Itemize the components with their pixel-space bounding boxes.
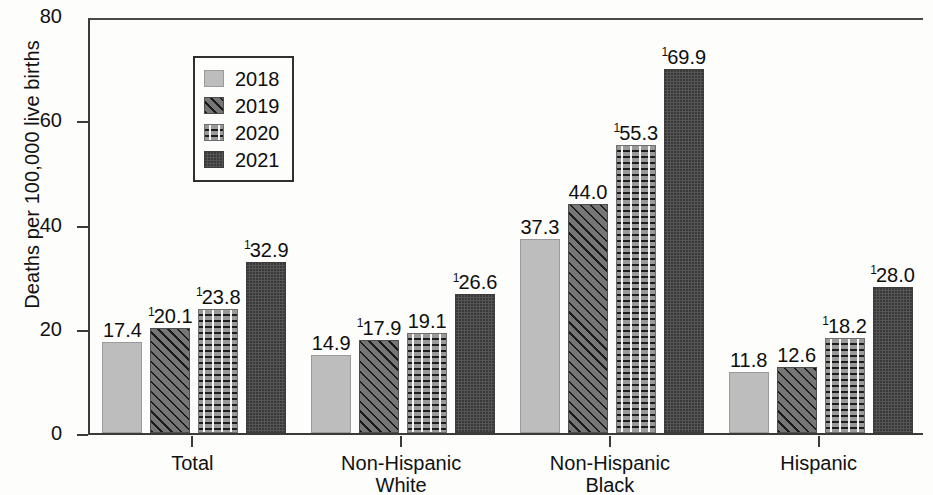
footnote-marker: 1 (196, 285, 203, 299)
footnote-marker: 1 (357, 316, 364, 330)
x-axis-tick-mark (818, 436, 820, 447)
bar-value-label: 155.3 (614, 123, 659, 143)
bar-value-label: 120.1 (148, 306, 193, 326)
legend-item: 2021 (204, 146, 280, 173)
footnote-marker: 1 (148, 305, 155, 319)
footnote-marker: 1 (453, 271, 460, 285)
legend-swatch-2019 (204, 97, 224, 114)
x-axis-group-label: Total (171, 452, 213, 474)
x-axis-tick-mark (400, 436, 402, 447)
legend-item: 2018 (204, 65, 280, 92)
x-axis-group-label-line: Total (171, 452, 213, 474)
footnote-marker: 1 (662, 45, 669, 59)
legend-item: 2020 (204, 119, 280, 146)
bar: 132.9 (246, 262, 286, 433)
bar-value-label: 128.0 (870, 265, 915, 285)
plot-area: 17.4120.1123.8132.914.9117.919.1126.637.… (88, 18, 923, 435)
bar: 117.9 (359, 340, 399, 433)
bar: 169.9 (664, 69, 704, 433)
x-axis-tick-mark (191, 436, 193, 447)
x-axis-group-label-line: Hispanic (780, 452, 857, 474)
bar-value-label: 17.4 (103, 320, 142, 340)
bar: 128.0 (873, 287, 913, 433)
bar-value-label: 19.1 (408, 311, 447, 331)
y-axis-tick-label: 40 (16, 214, 62, 237)
bar: 118.2 (825, 338, 865, 433)
x-axis-group-label: Non-HispanicWhite (341, 452, 461, 495)
bar-value-label: 123.8 (196, 287, 241, 307)
bar: 44.0 (568, 204, 608, 433)
bar: 14.9 (311, 355, 351, 433)
legend-swatch-2021 (204, 151, 224, 168)
bar: 155.3 (616, 145, 656, 433)
y-axis-title: Deaths per 100,000 live births (21, 0, 44, 355)
x-axis-group-label-line: Black (550, 474, 670, 495)
y-axis-tick-mark (77, 226, 88, 228)
y-axis-tick-mark (77, 121, 88, 123)
bar-chart: Deaths per 100,000 live births 806040200… (0, 0, 933, 495)
y-axis-tick-label: 0 (16, 422, 62, 445)
bar-value-label: 117.9 (357, 318, 402, 338)
bar: 123.8 (198, 309, 238, 433)
x-axis-tick-mark (609, 436, 611, 447)
legend-label-2020: 2020 (235, 123, 280, 143)
y-axis-tick-label: 60 (16, 109, 62, 132)
bar-value-label: 126.6 (453, 272, 498, 292)
bar: 120.1 (150, 328, 190, 433)
bar-value-label: 118.2 (822, 316, 867, 336)
x-axis-group-label-line: Non-Hispanic (341, 452, 461, 474)
x-axis-group-label-line: White (341, 474, 461, 495)
legend-item: 2019 (204, 92, 280, 119)
footnote-marker: 1 (870, 263, 877, 277)
x-axis-group-label: Hispanic (780, 452, 857, 474)
y-axis-tick-mark (77, 434, 88, 436)
bar-value-label: 14.9 (312, 333, 351, 353)
bar-value-label: 44.0 (568, 182, 607, 202)
legend-label-2021: 2021 (235, 150, 280, 170)
legend-swatch-2018 (204, 70, 224, 87)
bar: 17.4 (102, 342, 142, 433)
bar-value-label: 132.9 (244, 240, 289, 260)
x-axis-group-label-line: Non-Hispanic (550, 452, 670, 474)
bar-value-label: 169.9 (662, 47, 707, 67)
bar: 37.3 (520, 239, 560, 433)
bar-value-label: 12.6 (777, 345, 816, 365)
legend-swatch-2020 (204, 124, 224, 141)
legend: 2018 2019 2020 2021 (193, 56, 294, 182)
bar: 11.8 (729, 372, 769, 434)
footnote-marker: 1 (244, 238, 251, 252)
x-axis-group-label: Non-HispanicBlack (550, 452, 670, 495)
bar-value-label: 37.3 (520, 217, 559, 237)
y-axis-tick-label: 80 (16, 5, 62, 28)
bar: 126.6 (455, 294, 495, 433)
footnote-marker: 1 (614, 121, 621, 135)
y-axis-tick-mark (77, 330, 88, 332)
legend-label-2018: 2018 (235, 69, 280, 89)
y-axis-tick-label: 20 (16, 318, 62, 341)
footnote-marker: 1 (822, 314, 829, 328)
legend-label-2019: 2019 (235, 96, 280, 116)
bar-value-label: 11.8 (730, 350, 767, 370)
bar: 19.1 (407, 333, 447, 433)
bar: 12.6 (777, 367, 817, 433)
